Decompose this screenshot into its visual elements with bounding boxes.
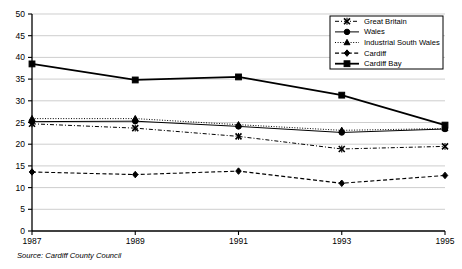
legend-label: Great Britain	[364, 17, 407, 26]
y-tick-label: 20	[16, 139, 26, 149]
data-point	[339, 92, 345, 98]
y-tick-label: 40	[16, 52, 26, 62]
y-tick-label: 50	[16, 9, 26, 19]
series-cardiff	[29, 168, 447, 187]
data-point	[29, 115, 35, 120]
y-tick-label: 35	[16, 74, 26, 84]
legend-label: Wales	[364, 27, 385, 36]
legend-item-cardiff-bay[interactable]: Cardiff Bay	[335, 59, 402, 68]
x-tick-label: 1987	[23, 236, 42, 246]
data-point	[442, 172, 447, 179]
data-point	[442, 122, 448, 128]
legend-label: Cardiff Bay	[364, 59, 402, 68]
y-tick-label: 30	[16, 96, 26, 106]
y-tick-label: 45	[16, 31, 26, 41]
legend-label: Cardiff	[364, 49, 387, 58]
x-tick-label: 1993	[332, 236, 351, 246]
legend: Great BritainWalesIndustrial South Wales…	[330, 16, 443, 69]
data-point	[29, 61, 35, 67]
chart-canvas: 0510152025303540455019871989199119931995…	[0, 0, 462, 269]
legend-marker	[344, 61, 350, 67]
data-point	[339, 180, 344, 187]
series-cardiff-bay	[29, 61, 448, 128]
data-point	[132, 77, 138, 83]
series-industrial-south-wales	[29, 115, 448, 132]
data-point	[236, 168, 241, 175]
y-tick-label: 15	[16, 161, 26, 171]
y-tick-label: 0	[20, 226, 25, 236]
data-point	[236, 74, 242, 80]
source-note: Source: Cardiff County Council	[17, 251, 121, 260]
x-axis-labels: 19871989199119931995	[23, 231, 455, 246]
x-tick-label: 1991	[229, 236, 248, 246]
y-tick-label: 5	[20, 204, 25, 214]
unemployment-line-chart: 0510152025303540455019871989199119931995…	[0, 0, 462, 269]
data-point	[133, 171, 138, 178]
series-group	[29, 61, 448, 187]
data-point	[442, 143, 448, 150]
legend-marker	[344, 29, 350, 35]
series-path	[32, 64, 445, 125]
legend-label: Industrial South Wales	[364, 38, 440, 47]
data-point	[132, 115, 138, 120]
y-tick-label: 25	[16, 118, 26, 128]
data-point	[29, 169, 34, 176]
x-tick-label: 1989	[126, 236, 145, 246]
x-tick-label: 1995	[436, 236, 455, 246]
y-tick-label: 10	[16, 183, 26, 193]
